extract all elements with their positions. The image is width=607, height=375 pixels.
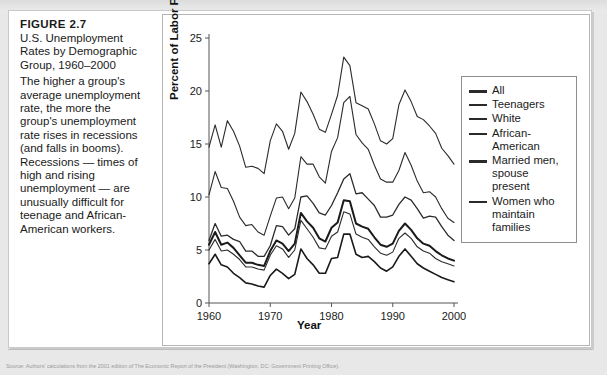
x-axis-title: Year xyxy=(297,319,321,331)
series-line xyxy=(209,174,454,257)
x-tick-label: 2000 xyxy=(442,310,466,322)
legend-item[interactable]: African- American xyxy=(469,127,570,153)
chart-legend: AllTeenagersWhiteAfrican- AmericanMarrie… xyxy=(461,76,577,243)
figure-title: U.S. Unemployment Rates by Demographic G… xyxy=(20,32,148,72)
figure-root: FIGURE 2.7 U.S. Unemployment Rates by De… xyxy=(0,0,607,375)
x-tick-label: 1970 xyxy=(258,310,282,322)
x-tick-label: 1990 xyxy=(381,310,405,322)
legend-item-label: White xyxy=(492,112,521,125)
panel-bottom-rule xyxy=(8,349,592,350)
legend-item-label: African- American xyxy=(492,127,540,153)
figure-number: FIGURE 2.7 xyxy=(20,18,148,30)
legend-line-swatch-icon xyxy=(469,104,487,106)
legend-line-swatch-icon xyxy=(469,133,487,135)
legend-item[interactable]: Women who maintain families xyxy=(469,195,570,235)
source-note: Source: Authors' calculations from the 2… xyxy=(6,363,604,370)
y-tick-label: 0 xyxy=(196,297,202,309)
y-tick-label: 15 xyxy=(190,138,202,150)
legend-line-swatch-icon xyxy=(469,90,487,93)
legend-item[interactable]: Teenagers xyxy=(469,98,570,111)
legend-item[interactable]: Married men, spouse present xyxy=(469,154,570,194)
x-tick-label: 1980 xyxy=(319,310,343,322)
legend-line-swatch-icon xyxy=(469,118,487,120)
legend-line-swatch-icon xyxy=(469,201,487,203)
legend-line-swatch-icon xyxy=(469,160,487,163)
legend-item-label: All xyxy=(492,84,505,97)
y-tick-label: 20 xyxy=(190,85,202,97)
legend-item-label: Teenagers xyxy=(492,98,545,111)
y-tick-label: 5 xyxy=(196,244,202,256)
x-tick-label: 1960 xyxy=(197,310,221,322)
series-line xyxy=(209,57,454,174)
series-line xyxy=(209,234,454,287)
legend-item-label: Married men, spouse present xyxy=(492,154,559,194)
legend-item[interactable]: White xyxy=(469,112,570,125)
series-line xyxy=(209,200,454,266)
y-tick-label: 25 xyxy=(190,32,202,44)
legend-item-label: Women who maintain families xyxy=(492,195,555,235)
y-tick-label: 10 xyxy=(190,191,202,203)
figure-caption: FIGURE 2.7 U.S. Unemployment Rates by De… xyxy=(20,18,148,236)
y-axis-title: Percent of Labor Force xyxy=(168,0,180,100)
figure-description: The higher a group's average unemploymen… xyxy=(20,75,148,236)
legend-item[interactable]: All xyxy=(469,84,570,97)
